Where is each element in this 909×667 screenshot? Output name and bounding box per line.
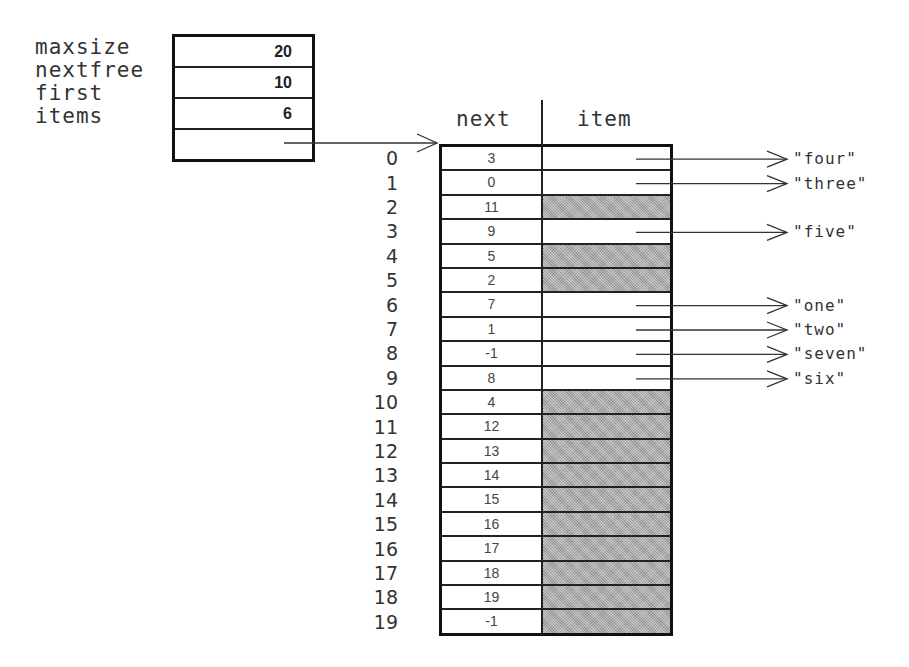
pointer-arrows bbox=[0, 0, 909, 667]
item-pointer-arrow bbox=[636, 151, 787, 167]
item-pointer-arrow bbox=[636, 371, 787, 387]
items-pointer-arrow bbox=[284, 134, 437, 152]
item-pointer-arrow bbox=[636, 224, 787, 240]
item-pointer-arrow bbox=[636, 176, 787, 192]
item-pointer-arrow bbox=[636, 298, 787, 314]
item-pointer-arrow bbox=[636, 322, 787, 338]
item-pointer-arrow bbox=[636, 346, 787, 362]
